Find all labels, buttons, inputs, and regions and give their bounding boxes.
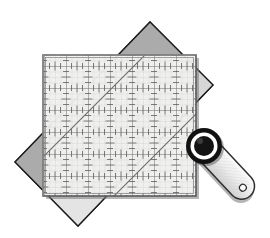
illustration-canvas: Rotary cutting set illustration A gray s… [0,0,270,238]
cutter-blade-disc [194,136,214,156]
rotary-cutting-set-illustration [0,0,270,238]
cutter-blade-hub [197,138,203,144]
ruler-grid-ticks [43,55,196,196]
cutting-mat-bottom-shade [43,196,196,226]
